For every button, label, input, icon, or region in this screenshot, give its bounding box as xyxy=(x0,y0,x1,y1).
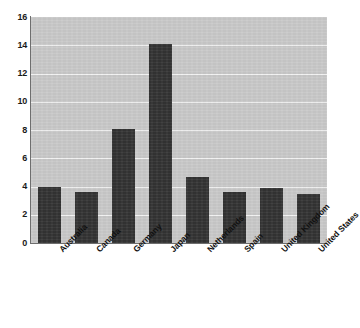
gridline xyxy=(31,130,327,131)
y-axis-tick-label: 6 xyxy=(3,154,27,163)
gridline xyxy=(31,102,327,103)
y-axis-tick-label: 8 xyxy=(3,126,27,135)
y-axis-tick-label: 14 xyxy=(3,41,27,50)
bar xyxy=(149,44,172,243)
y-axis-tick-label: 0 xyxy=(3,239,27,248)
y-axis-tick-label: 2 xyxy=(3,210,27,219)
y-axis-tick-label: 16 xyxy=(3,13,27,22)
bar xyxy=(186,177,209,243)
plot-area xyxy=(31,17,327,243)
y-axis-tick-label: 4 xyxy=(3,182,27,191)
y-axis-tick-labels: 1614121086420 xyxy=(0,0,27,328)
gridline xyxy=(31,158,327,159)
y-axis-line xyxy=(30,16,31,244)
gridline xyxy=(31,74,327,75)
y-axis-tick-label: 10 xyxy=(3,97,27,106)
bar xyxy=(260,188,283,243)
bar xyxy=(38,187,61,244)
gridline xyxy=(31,45,327,46)
y-axis-tick-label: 12 xyxy=(3,69,27,78)
